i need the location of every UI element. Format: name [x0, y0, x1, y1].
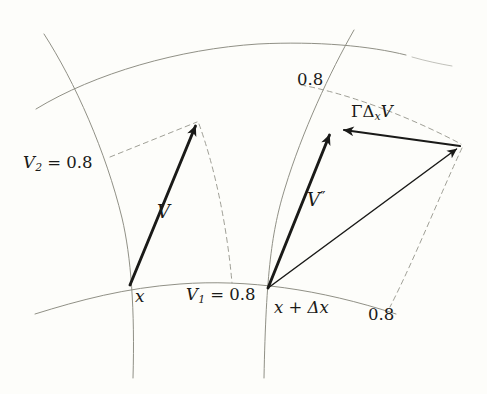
label-v1-symbol: V [186, 285, 198, 304]
label-gamma-symbol: Γ [351, 102, 362, 121]
label-gamma-vector: V [381, 102, 393, 121]
label-v1-component: V1 = 0.8 [186, 287, 256, 306]
label-point-x-plus-delta-x: x + Δx [274, 300, 329, 317]
label-tick-value-top: 0.8 [297, 72, 323, 89]
figure-canvas [0, 0, 487, 394]
label-v2-symbol: V [23, 153, 35, 172]
parallel-transport-figure: V2 = 0.8 V1 = 0.8 V V″ x x + Δx 0.8 0.8 … [0, 0, 487, 394]
dashed-v1-projection [199, 124, 232, 283]
label-v2-component: V2 = 0.8 [23, 155, 93, 174]
label-vector-v-double-prime: V″ [307, 190, 325, 209]
label-point-x: x [135, 288, 145, 305]
label-v2-value: = 0.8 [42, 153, 93, 172]
grid-curve-left-vertical [44, 34, 134, 378]
dashed-construction-lines [110, 85, 462, 307]
grid-curve-upper-tail [412, 57, 452, 66]
label-v1-value: = 0.8 [205, 285, 256, 304]
label-vpp-prime-mark: ″ [320, 188, 325, 205]
label-vpp-symbol: V [307, 189, 320, 210]
grid-curve-upper [36, 43, 406, 109]
coordinate-grid [35, 30, 452, 378]
label-vector-v: V [157, 203, 170, 221]
label-tick-value-bottom: 0.8 [368, 307, 394, 324]
label-christoffel-term: ΓΔxV [351, 104, 393, 123]
label-v2-subscript: 2 [35, 161, 42, 174]
label-delta-symbol: Δ [362, 102, 374, 121]
label-v1-subscript: 1 [198, 293, 205, 306]
vector-christoffel-correction [344, 130, 460, 146]
